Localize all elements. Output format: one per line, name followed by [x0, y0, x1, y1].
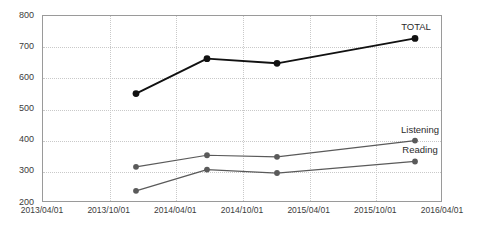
gridline-x-2015-04-01 [310, 16, 311, 201]
x-axis-tick-2014-10-01: 2014/10/01 [221, 206, 264, 215]
gridline-x-2013-10-01 [110, 16, 111, 201]
gridline-y-300 [43, 172, 441, 173]
y-axis-tick-600: 600 [0, 73, 34, 82]
gridline-y-700 [43, 47, 441, 48]
gridline-y-400 [43, 141, 441, 142]
series-label-total: TOTAL [401, 22, 431, 32]
x-axis-tick-2015-10-01: 2015/10/01 [354, 206, 397, 215]
y-axis-tick-800: 800 [0, 11, 34, 20]
y-axis-tick-400: 400 [0, 135, 34, 144]
y-axis-tick-500: 500 [0, 104, 34, 113]
x-axis-tick-2013-04-01: 2013/04/01 [21, 206, 64, 215]
series-label-listening: Listening [401, 125, 439, 135]
plot-area [42, 15, 442, 202]
series-label-reading: Reading [402, 146, 437, 156]
line-chart: 200300400500600700800 2013/04/012013/10/… [0, 0, 479, 230]
gridline-x-2015-10-01 [376, 16, 377, 201]
y-axis-tick-300: 300 [0, 166, 34, 175]
gridline-x-2014-10-01 [243, 16, 244, 201]
x-axis-tick-2013-10-01: 2013/10/01 [87, 206, 130, 215]
y-axis-tick-700: 700 [0, 42, 34, 51]
x-axis-tick-2014-04-01: 2014/04/01 [154, 206, 197, 215]
gridline-y-500 [43, 110, 441, 111]
gridline-x-2014-04-01 [176, 16, 177, 201]
x-axis-tick-2016-04-01: 2016/04/01 [421, 206, 464, 215]
x-axis-tick-2015-04-01: 2015/04/01 [287, 206, 330, 215]
gridline-y-600 [43, 78, 441, 79]
